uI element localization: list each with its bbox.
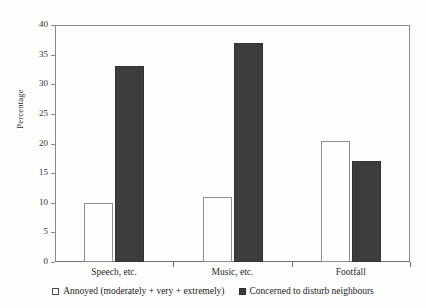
y-tick-label: 25 (24, 108, 48, 118)
x-category-label: Speech, etc. (54, 267, 174, 277)
chart-legend: Annoyed (moderately + very + extremely) … (0, 286, 426, 296)
x-category-label: Music, etc. (173, 267, 293, 277)
y-tick-label: 35 (24, 49, 48, 59)
y-tick-label: 0 (24, 256, 48, 266)
chart-figure: Percentage 0510152025303540 Speech, etc.… (0, 0, 426, 308)
bar (115, 66, 144, 262)
bar (321, 141, 350, 262)
open-square-swatch-icon (52, 288, 59, 295)
legend-item: Concerned to disturb neighbours (239, 286, 374, 296)
y-tick-label: 10 (24, 197, 48, 207)
y-tick-label: 15 (24, 167, 48, 177)
legend-label: Concerned to disturb neighbours (250, 286, 374, 296)
legend-item: Annoyed (moderately + very + extremely) (52, 286, 224, 296)
filled-square-swatch-icon (239, 288, 246, 295)
bar (234, 43, 263, 262)
y-tick-label: 5 (24, 226, 48, 236)
bar (352, 161, 381, 262)
legend-label: Annoyed (moderately + very + extremely) (63, 286, 224, 296)
y-tick-label: 40 (24, 19, 48, 29)
x-category-label: Footfall (291, 267, 411, 277)
bar (84, 203, 113, 262)
y-tick-label: 30 (24, 78, 48, 88)
y-tick-mark (51, 262, 55, 263)
bar (203, 197, 232, 262)
y-tick-label: 20 (24, 138, 48, 148)
